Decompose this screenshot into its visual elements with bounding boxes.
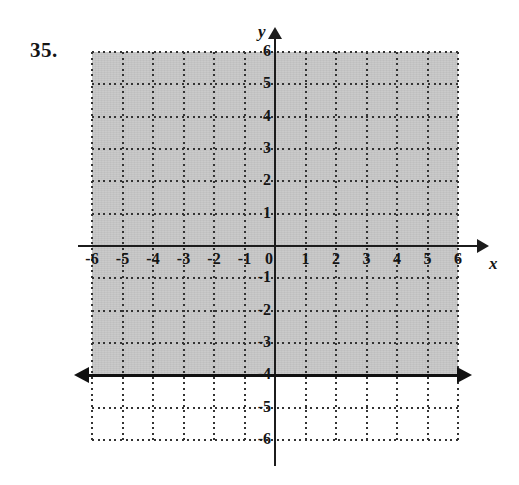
y-axis-tick-label: -1 — [245, 268, 271, 286]
x-axis-label: x — [489, 254, 498, 274]
x-axis-tick-label: 0 — [256, 250, 282, 268]
x-axis-tick-label: 1 — [293, 250, 319, 268]
x-axis-tick-label: 3 — [354, 250, 380, 268]
x-axis-tick-label: 4 — [384, 250, 410, 268]
x-axis-tick-label: 6 — [445, 250, 471, 268]
y-axis-tick-label: 5 — [245, 74, 271, 92]
y-axis-tick-label: 3 — [245, 139, 271, 157]
x-axis-tick-label: -3 — [171, 250, 197, 268]
x-axis-tick-label: -4 — [140, 250, 166, 268]
x-axis-tick-label: -1 — [232, 250, 258, 268]
x-axis-line — [78, 245, 480, 247]
y-axis-tick-label: -6 — [245, 430, 271, 448]
y-axis-tick-label: 2 — [245, 171, 271, 189]
y-axis-tick-label: -5 — [245, 398, 271, 416]
boundary-line-arrow-left-icon — [74, 367, 89, 383]
y-axis-tick-label: -3 — [245, 333, 271, 351]
x-axis-arrow-icon — [477, 239, 489, 253]
x-axis-tick-label: -5 — [110, 250, 136, 268]
y-axis-tick-label: 1 — [245, 204, 271, 222]
x-axis-tick-label: -6 — [79, 250, 105, 268]
boundary-line-arrow-right-icon — [457, 367, 472, 383]
y-axis-label: y — [258, 22, 266, 42]
y-axis-arrow-icon — [268, 27, 282, 39]
y-axis-tick-label: 6 — [245, 42, 271, 60]
x-axis-tick-label: -2 — [201, 250, 227, 268]
y-axis-tick-label: -4 — [245, 365, 271, 383]
boundary-line — [88, 374, 462, 377]
y-axis-tick-label: 4 — [245, 107, 271, 125]
x-axis-tick-label: 5 — [415, 250, 441, 268]
x-axis-tick-label: 2 — [323, 250, 349, 268]
exercise-figure: 35. -6-5-4-3-2-10123456654321-1-2-3-4-5-… — [0, 0, 519, 485]
y-axis-tick-label: -2 — [245, 301, 271, 319]
